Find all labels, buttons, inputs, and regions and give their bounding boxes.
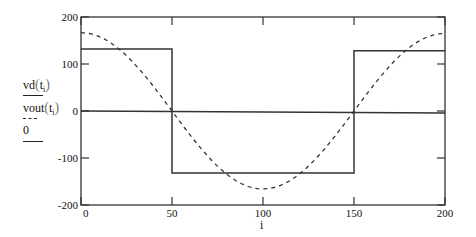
plot-area: 2001000-100-200 050100150200 [0, 0, 476, 237]
legend-label-vd: vd(ti) [23, 78, 59, 94]
legend-line-dashed [23, 118, 37, 119]
chart: 2001000-100-200 050100150200 vd(ti) vout… [0, 0, 476, 237]
legend: vd(ti) vout(ti) 0 [23, 78, 59, 147]
y-tick-label: 100 [62, 58, 79, 70]
legend-entry-vout: vout(ti) [23, 101, 59, 124]
x-tick-label: 150 [346, 207, 363, 219]
legend-entry-zero: 0 [23, 124, 59, 147]
legend-label-vout: vout(ti) [23, 101, 59, 117]
y-tick-label: 0 [73, 105, 79, 117]
legend-line-solid [23, 95, 43, 96]
x-axis-label: i [260, 218, 263, 233]
series-group [81, 33, 445, 189]
x-axis-ticks: 050100150200 [81, 17, 454, 219]
x-tick-label: 50 [167, 207, 179, 219]
legend-line-solid [23, 141, 43, 142]
legend-entry-vd: vd(ti) [23, 78, 59, 101]
y-tick-label: -200 [58, 199, 79, 211]
x-tick-label: 0 [83, 207, 89, 219]
series-zero [81, 111, 445, 113]
y-tick-label: 200 [62, 11, 79, 23]
y-tick-label: -100 [58, 152, 79, 164]
legend-label-zero: 0 [23, 124, 59, 136]
x-tick-label: 200 [437, 207, 454, 219]
